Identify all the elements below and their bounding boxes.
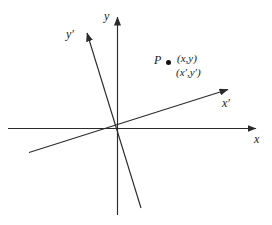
y-axis-label: y	[104, 10, 109, 22]
x-prime-axis-line	[29, 90, 228, 153]
y-prime-axis-line	[87, 33, 141, 208]
x-prime-axis-label: x′	[222, 97, 230, 109]
point-P-label: P	[154, 54, 161, 66]
coordinate-diagram: y y′ x′ x P (x,y) (x′,y′)	[0, 0, 272, 225]
axes-svg	[0, 0, 272, 225]
y-prime-axis-label: y′	[66, 28, 74, 40]
x-axis-label: x	[254, 133, 259, 145]
point-P-marker	[166, 60, 171, 65]
coords-unprimed-label: (x,y)	[177, 53, 197, 64]
coords-primed-label: (x′,y′)	[176, 67, 201, 78]
